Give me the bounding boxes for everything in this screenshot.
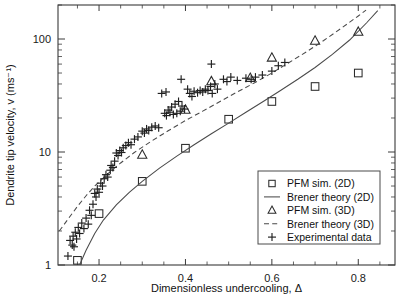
legend-item-label: Experimental data [287, 231, 372, 243]
x-tick-label: 0.8 [351, 272, 366, 284]
dendrite-tip-velocity-chart: 0.20.40.60.8110100Dimensionless undercoo… [0, 0, 410, 306]
y-tick-label: 10 [39, 146, 51, 158]
data-point-square [354, 69, 362, 77]
legend-item-label: Brener theory (2D) [287, 191, 374, 203]
legend-item-label: Brener theory (3D) [287, 218, 374, 230]
y-axis-label: Dendrite tip velocity, v (ms⁻¹) [4, 64, 16, 206]
legend-item-label: PFM sim. (3D) [287, 204, 355, 216]
data-point-triangle [310, 36, 319, 44]
legend-item-label: PFM sim. (2D) [287, 177, 355, 189]
data-point-square [268, 98, 276, 106]
x-tick-label: 0.2 [91, 272, 106, 284]
data-point-triangle [267, 53, 276, 61]
data-point-square [95, 210, 103, 218]
y-tick-label: 100 [33, 33, 51, 45]
data-point-square [311, 83, 319, 91]
y-tick-label: 1 [45, 259, 51, 271]
series-pfm-sim-3d [138, 27, 363, 158]
chart-figure: 0.20.40.60.8110100Dimensionless undercoo… [0, 0, 410, 306]
x-axis-label: Dimensionless undercooling, Δ [151, 282, 303, 294]
legend: PFM sim. (2D)Brener theory (2D)PFM sim. … [258, 171, 380, 244]
data-point-triangle [138, 150, 147, 158]
